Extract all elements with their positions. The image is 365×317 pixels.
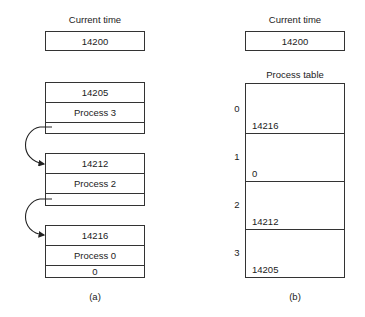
entry-value: 14205	[252, 264, 278, 275]
process-table-row: 14212	[246, 181, 344, 229]
entry-value: 14216	[252, 120, 278, 131]
entry-index: 2	[231, 199, 243, 210]
current-time-box-b: 14200	[245, 31, 345, 51]
next-pointer-arrow-2	[26, 199, 53, 235]
entry-index: 3	[231, 247, 243, 258]
caption-b: (b)	[245, 291, 345, 302]
entry-value: 0	[252, 168, 257, 179]
process-table-row: 14216	[246, 84, 344, 133]
entry-index: 0	[231, 103, 243, 114]
process-table: 14216 0 14212 14205	[245, 83, 345, 278]
current-time-label-b: Current time	[245, 14, 345, 25]
current-time-value-b: 14200	[246, 36, 344, 47]
entry-value: 14212	[252, 216, 278, 227]
process-table-row: 0	[246, 133, 344, 181]
entry-index: 1	[231, 151, 243, 162]
next-pointer-arrow-1	[26, 127, 53, 164]
process-table-row: 14205	[246, 229, 344, 277]
process-table-title: Process table	[245, 69, 345, 80]
